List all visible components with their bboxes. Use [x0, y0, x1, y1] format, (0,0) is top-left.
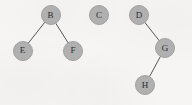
graph-node-b[interactable]: B — [41, 5, 61, 25]
graph-node-label: H — [142, 81, 149, 90]
graph-edge-g-h — [149, 55, 162, 79]
graph-node-f[interactable]: F — [63, 41, 83, 61]
graph-node-label: F — [70, 46, 75, 55]
graph-node-label: B — [47, 11, 53, 20]
graph-node-h[interactable]: H — [135, 75, 155, 95]
graph-node-d[interactable]: D — [129, 5, 149, 25]
graph-edge-b-f — [55, 21, 69, 44]
graph-edge-d-g — [144, 21, 161, 42]
graph-edge-b-e — [27, 21, 46, 45]
graph-node-label: C — [96, 11, 102, 20]
graph-node-c[interactable]: C — [89, 5, 109, 25]
graph-node-g[interactable]: G — [155, 38, 175, 58]
graph-canvas: BCDEFGH — [0, 0, 192, 105]
graph-node-e[interactable]: E — [13, 41, 33, 61]
graph-node-label: E — [20, 46, 26, 55]
graph-node-label: D — [136, 11, 143, 20]
graph-node-label: G — [162, 44, 169, 53]
